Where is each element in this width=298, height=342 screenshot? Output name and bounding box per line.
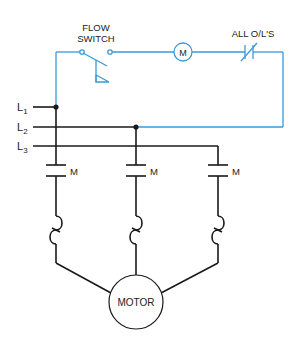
switch-terminal-right [108, 50, 112, 54]
overload-label: ALL O/L'S [232, 28, 275, 39]
junction-l1 [53, 104, 58, 109]
motor-control-diagram: FLOW SWITCH M ALL O/L'S [0, 0, 298, 342]
heater-1-icon [50, 216, 62, 263]
flow-switch-blade [83, 53, 107, 66]
junction-l2 [133, 124, 138, 129]
contact-1-label: M [70, 166, 78, 177]
flow-switch-label-2: SWITCH [77, 33, 115, 44]
control-circuit [56, 43, 283, 127]
heater-2-icon [130, 216, 142, 275]
l1-label: L1 [17, 101, 28, 116]
contact-2-label: M [150, 166, 158, 177]
l3-label: L3 [17, 140, 28, 155]
power-circuit [33, 107, 228, 329]
motor-label: MOTOR [117, 297, 154, 308]
coil-label: M [179, 48, 187, 58]
heater-3-icon [212, 216, 224, 263]
l2-label: L2 [17, 121, 28, 136]
flow-switch-label: FLOW [82, 22, 109, 33]
contact-3-label: M [232, 166, 240, 177]
